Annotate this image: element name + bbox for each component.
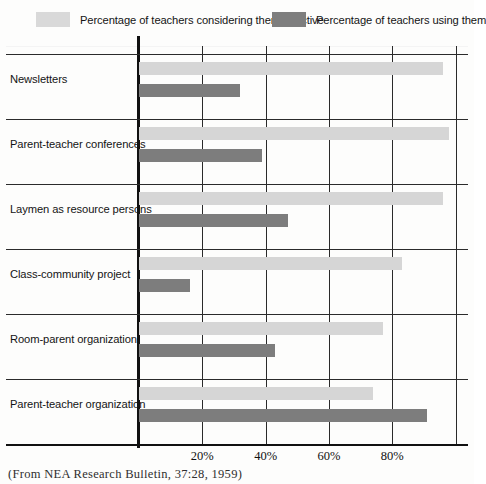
chart-legend: Percentage of teachers considering them …: [0, 12, 474, 34]
legend-entry-using: Percentage of teachers using them: [272, 12, 486, 27]
bar-effective: [139, 62, 443, 75]
category-label: Class-community project: [10, 268, 130, 280]
category-group: Laymen as resource persons: [6, 184, 468, 249]
bar-effective: [139, 387, 373, 400]
plot-top-edge: [6, 46, 468, 47]
dark-grey-swatch-icon: [272, 12, 306, 27]
category-group: Parent-teacher organization: [6, 379, 468, 444]
legend-label-using: Percentage of teachers using them: [316, 14, 486, 26]
bar-using: [139, 344, 275, 357]
bar-using: [139, 409, 427, 422]
x-axis-line: [6, 444, 468, 446]
category-label: Parent-teacher conferences: [10, 138, 145, 150]
x-tick-label: 20%: [191, 449, 214, 464]
bar-using: [139, 84, 240, 97]
x-axis-tick-labels: 20%40%60%80%: [6, 449, 468, 467]
bar-effective: [139, 127, 449, 140]
category-group: Class-community project: [6, 249, 468, 314]
light-grey-swatch-icon: [36, 12, 70, 27]
category-group: Parent-teacher conferences: [6, 119, 468, 184]
category-group: Room-parent organization: [6, 314, 468, 379]
bar-using: [139, 279, 190, 292]
x-tick-label: 80%: [381, 449, 404, 464]
bar-using: [139, 214, 288, 227]
bar-effective: [139, 192, 443, 205]
category-label: Room-parent organization: [10, 333, 137, 345]
category-label: Parent-teacher organization: [10, 398, 145, 410]
figure-caption: (From NEA Research Bulletin, 37:28, 1959…: [0, 470, 474, 484]
category-group: Newsletters: [6, 54, 468, 119]
plot-area: NewslettersParent-teacher conferencesLay…: [6, 46, 468, 444]
x-tick-label: 40%: [254, 449, 277, 464]
bar-effective: [139, 322, 383, 335]
bar-effective: [139, 257, 402, 270]
caption-text: (From NEA Research Bulletin, 37:28, 1959…: [8, 470, 242, 482]
category-label: Newsletters: [10, 73, 67, 85]
bar-using: [139, 149, 262, 162]
category-label: Laymen as resource persons: [10, 203, 152, 215]
x-tick-label: 60%: [317, 449, 340, 464]
